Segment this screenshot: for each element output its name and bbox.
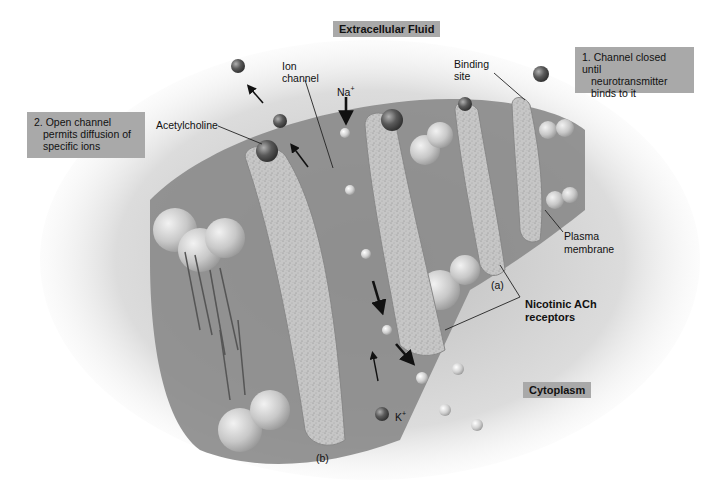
nicotinic-receptor-diagram: Extracellular Fluid Cytoplasm 1. Channel…	[0, 0, 721, 487]
step-2-line-2: permits diffusion of	[34, 128, 138, 140]
potassium-symbol: K	[395, 411, 402, 423]
plasma-membrane-label-line2: membrane	[564, 243, 614, 255]
binding-site-label-line1: Binding	[454, 58, 489, 70]
potassium-ion	[375, 407, 389, 421]
step-2-line-3: specific ions	[34, 140, 138, 152]
step-1-box: 1. Channel closed until neurotransmitter…	[575, 47, 694, 93]
receptor-b-label: (b)	[316, 452, 329, 464]
step-2-box: 2. Open channel permits diffusion of spe…	[27, 112, 145, 158]
nicotinic-ach-receptors-label-line1: Nicotinic ACh	[525, 298, 597, 310]
sodium-label: Na+	[337, 83, 355, 98]
ion-channel-label-line1: Ion	[282, 60, 297, 72]
step-2-line-1: 2. Open channel	[34, 116, 138, 128]
sodium-symbol: Na	[337, 86, 350, 98]
extracellular-fluid-label: Extracellular Fluid	[333, 21, 440, 37]
nicotinic-ach-receptors-label-line2: receptors	[525, 311, 575, 323]
step-1-line-1: 1. Channel closed until	[582, 51, 687, 75]
step-1-line-3: binds to it	[582, 87, 687, 99]
step-1-line-2: neurotransmitter	[582, 75, 687, 87]
ion-channel-label-line2: channel	[282, 72, 319, 84]
sodium-charge: +	[350, 85, 354, 92]
acetylcholine-label: Acetylcholine	[156, 119, 218, 131]
plasma-membrane-label-line1: Plasma	[564, 230, 599, 242]
potassium-charge: +	[402, 410, 406, 417]
potassium-label: K+	[395, 408, 406, 423]
receptor-a-label: (a)	[491, 279, 504, 291]
binding-site-label-line2: site	[454, 70, 470, 82]
cytoplasm-label: Cytoplasm	[523, 382, 591, 398]
